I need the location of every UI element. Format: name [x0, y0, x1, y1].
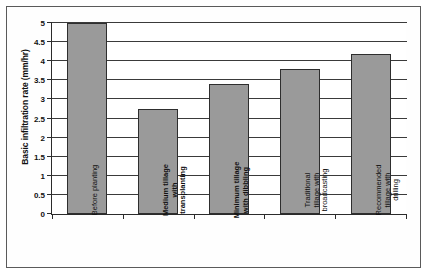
y-axis-tick-label: 0	[41, 210, 45, 219]
figure-frame: Basic infiltration rate (mm/hr) 00.511.5…	[6, 6, 421, 268]
y-axis-tick-label: 1	[41, 171, 45, 180]
y-axis-tick-label: 2	[41, 133, 45, 142]
y-axis-tick-label: 0.5	[34, 190, 45, 199]
y-axis-tick-label: 5	[41, 19, 45, 28]
x-axis-category-label: Medium tillage with transplanting	[162, 160, 222, 220]
y-axis-tick-label: 3	[41, 95, 45, 104]
y-axis-tick-label: 3.5	[34, 76, 45, 85]
y-axis-tick-label: 4	[41, 57, 45, 66]
y-axis-title: Basic infiltration rate (mm/hr)	[20, 12, 30, 202]
y-axis-tick-label: 1.5	[34, 152, 45, 161]
y-axis-tick-label: 2.5	[34, 114, 45, 123]
x-axis-category-label: Before planting	[91, 160, 151, 220]
x-axis-category-label: Traditional tillage with broadcasting	[304, 160, 364, 220]
x-axis-category-label: Recommended tillage with drilling	[375, 160, 429, 220]
x-axis-category-label: Minimum tillage with dibbling	[233, 160, 293, 220]
x-axis-tick	[52, 214, 53, 219]
y-axis-tick-label: 4.5	[34, 38, 45, 47]
